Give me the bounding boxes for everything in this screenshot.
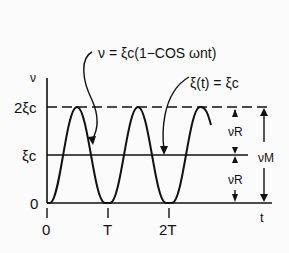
vm-arrow-up [260,108,268,116]
x-tick-2T: 2T [159,221,177,238]
x-axis-label: t [260,210,264,225]
x-tick-0: 0 [42,221,50,238]
input-arrowhead [160,146,168,155]
vr-upper-arrow-down [232,147,238,154]
y-axis-label: ν [30,71,36,85]
vm-arrow-down [260,194,268,202]
vr-lower-arrow-up [232,156,238,163]
vr-upper-arrow-up [232,109,238,117]
input-equation: ξ(t) = ξc [190,75,239,91]
vr-upper-label: νR [228,125,243,139]
y-tick-2xi: 2ξc [14,99,37,116]
vm-label: νM [258,151,274,165]
y-tick-xi: ξc [22,147,37,164]
step-response-diagram: ν = ξc(1−COS ωnt) ξ(t) = ξc ν 2ξc ξc 0 0… [0,0,289,253]
x-tick-T: T [103,221,112,238]
input-leader-line [163,77,189,150]
response-equation: ν = ξc(1−COS ωnt) [98,45,216,61]
vr-lower-label: νR [228,173,243,187]
y-tick-0: 0 [30,195,38,212]
